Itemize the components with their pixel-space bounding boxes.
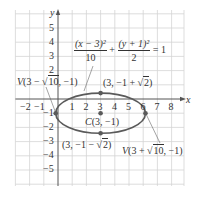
x-tick: 5: [126, 102, 131, 112]
y-tick: −4: [43, 150, 54, 160]
grid: [15, 10, 184, 186]
vertex-left-point: [53, 111, 58, 116]
y-tick: −5: [43, 164, 54, 174]
y-tick: 4: [49, 37, 54, 47]
vertex-right-label: V(3 + √10, −1): [122, 146, 183, 156]
y-axis-arrow-icon: [56, 9, 60, 15]
x-tick: −2: [20, 102, 31, 112]
y-axis-label: y: [50, 8, 54, 18]
y-tick: 5: [49, 23, 54, 33]
x-tick: 1: [70, 102, 75, 112]
center-label: CC(3, −1)(3, −1): [85, 117, 119, 127]
vertex-left-label: V(3 − √10, −1): [17, 77, 78, 87]
x-tick: 8: [169, 102, 174, 112]
covertex-bottom-label: (3, −1 − √2): [62, 140, 111, 150]
y-tick: −2: [43, 122, 54, 132]
equation-rhs: = 1: [153, 44, 166, 55]
equation-plus: +: [109, 44, 115, 55]
ellipse-equation: (x − 3)² 10 + (y + 1)² 2 = 1: [74, 38, 166, 63]
equation-term-1: (x − 3)² 10: [74, 38, 107, 63]
x-tick: 6: [141, 102, 146, 112]
y-tick: 3: [49, 51, 54, 61]
covertex-bottom-point: [98, 131, 103, 136]
x-tick: 3: [98, 102, 103, 112]
covertex-top-point: [98, 91, 103, 96]
equation-term-2: (y + 1)² 2: [118, 38, 151, 63]
y-tick: 2: [49, 65, 54, 75]
ellipse-diagram: [0, 0, 197, 199]
y-tick: −1: [43, 108, 54, 118]
covertex-top-label: (3, −1 + √2): [103, 78, 152, 88]
y-tick: −3: [43, 136, 54, 146]
x-tick: 7: [155, 102, 160, 112]
x-axis-label: x: [186, 95, 190, 105]
x-tick: 2: [84, 102, 89, 112]
x-tick: 4: [112, 102, 117, 112]
